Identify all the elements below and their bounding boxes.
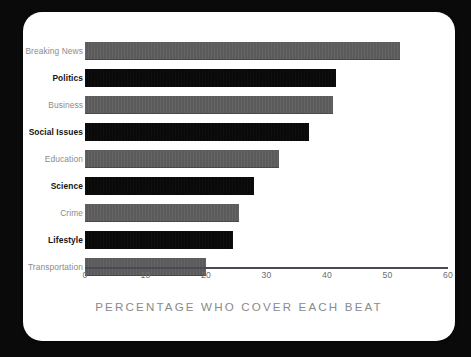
bar-lifestyle: [85, 231, 233, 249]
bar-breaking-news: [85, 42, 400, 60]
category-label-politics: Politics: [52, 74, 83, 82]
chart-row: Breaking News: [23, 42, 455, 60]
chart-caption: PERCENTAGE WHO COVER EACH BEAT: [23, 300, 455, 313]
x-tick-0: 0: [83, 270, 88, 280]
bar-science: [85, 177, 254, 195]
chart-row: Science: [23, 177, 455, 195]
chart-row: Business: [23, 96, 455, 114]
x-tick-60: 60: [443, 270, 453, 280]
x-tick-10: 10: [141, 270, 151, 280]
bar-politics: [85, 69, 336, 87]
page-background: Breaking News Politics Business Social I…: [0, 0, 471, 357]
category-label-crime: Crime: [60, 209, 83, 217]
category-label-business: Business: [48, 101, 83, 109]
category-label-transportation: Transportation: [28, 263, 83, 271]
chart-row: Social Issues: [23, 123, 455, 141]
x-axis-line: [85, 267, 448, 269]
bar-education: [85, 150, 279, 168]
category-label-social-issues: Social Issues: [29, 128, 83, 136]
bar-business: [85, 96, 333, 114]
chart-row: Crime: [23, 204, 455, 222]
chart-row: Lifestyle: [23, 231, 455, 249]
bar-chart: Breaking News Politics Business Social I…: [23, 12, 455, 341]
x-tick-50: 50: [383, 270, 393, 280]
chart-row: Politics: [23, 69, 455, 87]
category-label-lifestyle: Lifestyle: [48, 236, 83, 244]
category-label-breaking-news: Breaking News: [25, 47, 83, 55]
bar-social-issues: [85, 123, 309, 141]
category-label-science: Science: [51, 182, 83, 190]
bar-crime: [85, 204, 239, 222]
x-tick-40: 40: [322, 270, 332, 280]
x-tick-30: 30: [262, 270, 272, 280]
chart-row: Education: [23, 150, 455, 168]
x-tick-20: 20: [201, 270, 211, 280]
category-label-education: Education: [45, 155, 83, 163]
chart-card: Breaking News Politics Business Social I…: [23, 12, 455, 341]
